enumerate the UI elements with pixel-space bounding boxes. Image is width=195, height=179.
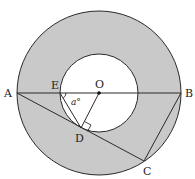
label-e: E [51, 79, 59, 92]
label-b: B [185, 87, 193, 100]
angle-label: a° [71, 97, 81, 107]
label-a: A [3, 87, 13, 100]
label-c: C [143, 165, 151, 178]
label-d: D [75, 132, 84, 145]
label-o: O [95, 78, 104, 91]
center-point-o [97, 91, 101, 95]
geometry-diagram: A B C D E O a° [0, 0, 195, 179]
diagram-canvas: A B C D E O a° [0, 0, 195, 179]
